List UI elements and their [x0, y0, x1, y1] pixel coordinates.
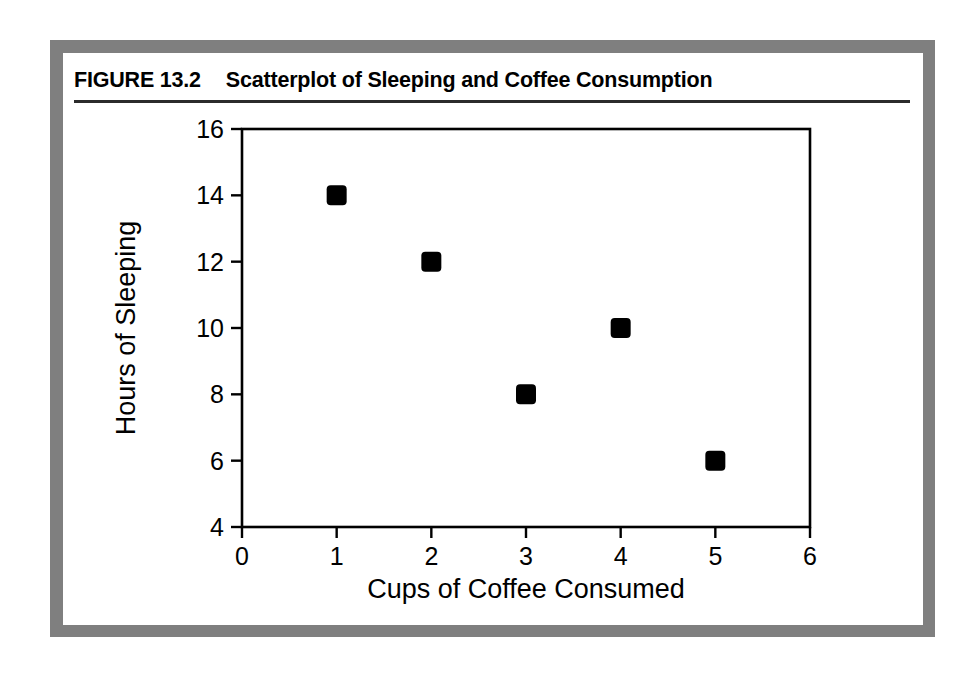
x-axis-title: Cups of Coffee Consumed [367, 574, 685, 604]
x-tick-label: 2 [424, 542, 438, 570]
y-tick-label: 10 [196, 314, 224, 342]
x-axis-ticks: 0123456 [235, 527, 817, 570]
y-axis-ticks: 46810121416 [196, 115, 242, 541]
y-tick-label: 4 [210, 513, 224, 541]
x-tick-label: 6 [803, 542, 817, 570]
data-point [327, 185, 347, 205]
y-tick-label: 6 [210, 447, 224, 475]
data-point [421, 252, 441, 272]
x-tick-label: 5 [708, 542, 722, 570]
x-tick-label: 3 [519, 542, 533, 570]
data-point [705, 451, 725, 471]
scatterplot-chart: 46810121416 0123456 Cups of Coffee Consu… [63, 53, 923, 625]
x-tick-label: 0 [235, 542, 249, 570]
plot-svg: 46810121416 0123456 Cups of Coffee Consu… [63, 53, 922, 624]
y-tick-label: 16 [196, 115, 224, 143]
y-tick-label: 8 [210, 380, 224, 408]
figure-card: FIGURE 13.2 Scatterplot of Sleeping and … [63, 53, 923, 625]
data-point [611, 318, 631, 338]
figure-outer-frame: FIGURE 13.2 Scatterplot of Sleeping and … [50, 40, 935, 637]
y-tick-label: 14 [196, 181, 224, 209]
y-axis-title: Hours of Sleeping [111, 221, 141, 436]
y-tick-label: 12 [196, 248, 224, 276]
data-points-group [327, 185, 726, 470]
x-tick-label: 1 [330, 542, 344, 570]
x-tick-label: 4 [614, 542, 628, 570]
data-point [516, 384, 536, 404]
